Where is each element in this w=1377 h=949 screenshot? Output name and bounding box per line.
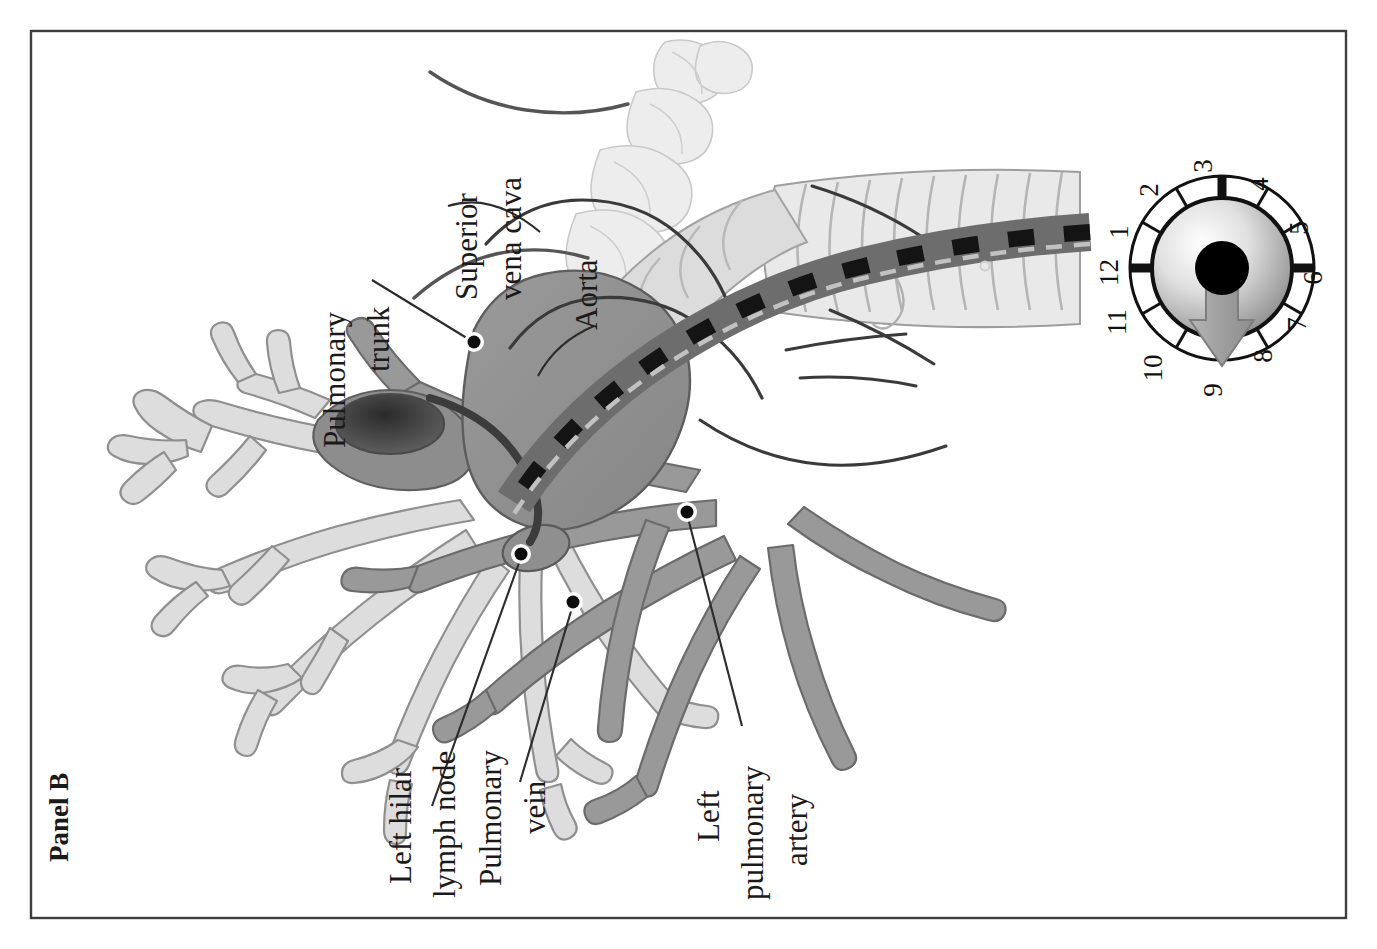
figure-panel-b: Superior vena cava Aorta Pulmonary trunk… <box>0 0 1377 949</box>
label-left-hilar-lymph-node-line-1: Left hilar <box>383 767 418 884</box>
clock-number-7: 7 <box>1282 317 1312 331</box>
label-pulmonary-trunk-line-1: Pulmonary <box>317 311 352 448</box>
label-pulmonary-vein-line-2: vein <box>517 780 552 834</box>
vein-lumen <box>336 394 444 454</box>
clock-number-9: 9 <box>1198 383 1228 397</box>
anatomy-illustration: Superior vena cava Aorta Pulmonary trunk… <box>0 0 1377 949</box>
label-pulmonary-vein-line-1: Pulmonary <box>473 749 508 886</box>
clock-number-5: 5 <box>1284 221 1314 235</box>
clock-number-2: 2 <box>1134 183 1164 197</box>
label-left-pulmonary-artery-line-1: Left <box>691 790 726 842</box>
label-left-hilar-lymph-node-line-2: lymph node <box>427 751 462 898</box>
clock-number-3: 3 <box>1188 159 1218 173</box>
label-aorta: Aorta <box>569 259 604 330</box>
dial-hub <box>1195 241 1249 295</box>
clock-number-4: 4 <box>1244 177 1274 191</box>
label-pulmonary-trunk-line-2: trunk <box>361 306 396 372</box>
label-superior-vena-cava-line-2: vena cava <box>493 177 528 300</box>
panel-label: Panel B <box>44 773 74 862</box>
label-left-pulmonary-artery-line-2: pulmonary <box>735 765 770 900</box>
clock-number-10: 10 <box>1138 355 1168 382</box>
label-superior-vena-cava-line-1: Superior <box>449 193 484 300</box>
clock-number-8: 8 <box>1248 349 1278 363</box>
clock-number-11: 11 <box>1102 309 1132 335</box>
label-aorta-line-1: Aorta <box>569 259 604 330</box>
label-left-pulmonary-artery-line-3: artery <box>779 793 814 866</box>
clock-number-12: 12 <box>1094 259 1124 286</box>
clock-number-6: 6 <box>1298 271 1328 285</box>
clock-number-1: 1 <box>1104 225 1134 239</box>
